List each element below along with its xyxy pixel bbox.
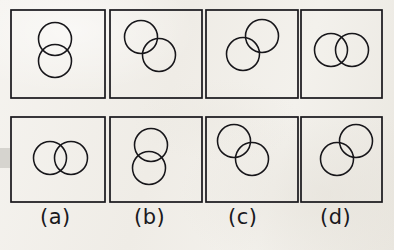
cell-frame (11, 117, 105, 202)
cell-bottom-d[interactable] (301, 117, 382, 202)
cell-frame (301, 117, 382, 202)
circle-2 (143, 39, 176, 72)
circle-1 (340, 125, 373, 158)
circle-1 (135, 129, 168, 162)
option-label-a[interactable]: (a) (40, 207, 71, 228)
option-label-d[interactable]: (d) (320, 207, 351, 228)
cell-frame (301, 10, 382, 98)
cell-frame (206, 117, 298, 202)
option-label-c[interactable]: (c) (228, 207, 257, 228)
cell-top-c[interactable] (206, 10, 298, 98)
cells-group (11, 10, 382, 202)
circle-1 (315, 34, 348, 67)
circle-2 (39, 45, 72, 78)
option-label-b[interactable]: (b) (134, 207, 165, 228)
circle-1 (34, 142, 67, 175)
cell-top-a[interactable] (11, 10, 105, 98)
cell-top-d[interactable] (301, 10, 382, 98)
circle-2 (133, 152, 166, 185)
circle-1 (39, 23, 72, 56)
cell-bottom-a[interactable] (11, 117, 105, 202)
circle-2 (321, 143, 354, 176)
circle-1 (125, 21, 158, 54)
circle-2 (227, 38, 260, 71)
circle-2 (236, 143, 269, 176)
circle-2 (55, 142, 88, 175)
circle-2 (336, 34, 369, 67)
circle-1 (218, 125, 251, 158)
cell-top-b[interactable] (110, 10, 202, 98)
cell-bottom-b[interactable] (110, 117, 202, 202)
circle-1 (246, 20, 279, 53)
cell-bottom-c[interactable] (206, 117, 298, 202)
figure-page: (a)(b)(c)(d) (0, 0, 394, 250)
cell-frame (110, 10, 202, 98)
